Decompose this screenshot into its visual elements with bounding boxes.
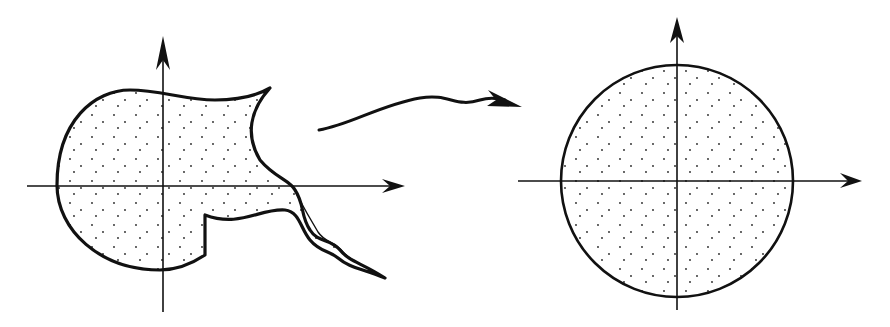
irregular-region <box>57 88 385 278</box>
left-region-panel <box>27 36 405 312</box>
wavy-arrow-shaft <box>319 97 505 130</box>
mapping-arrow <box>319 90 522 130</box>
unit-disk-panel <box>518 17 862 310</box>
conformal-map-diagram <box>0 0 890 327</box>
